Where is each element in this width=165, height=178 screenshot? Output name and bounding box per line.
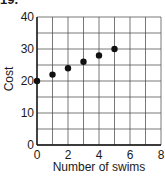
data-point [111,46,117,52]
y-tick-label: 0 [27,138,34,152]
x-tick-label: 2 [65,148,72,162]
y-tick-label: 20 [21,74,35,88]
x-tick-label: 4 [96,148,103,162]
y-tick-label: 40 [21,10,35,24]
data-point [49,71,55,77]
scatter-plot: 02468010203040 [0,0,165,178]
x-tick-label: 6 [127,148,134,162]
data-point [80,59,86,65]
x-tick-label: 8 [158,148,165,162]
data-point [65,65,71,71]
y-tick-label: 30 [21,42,35,56]
y-tick-label: 10 [21,106,35,120]
data-point [96,52,102,58]
x-tick-label: 0 [34,148,41,162]
data-point [34,78,40,84]
